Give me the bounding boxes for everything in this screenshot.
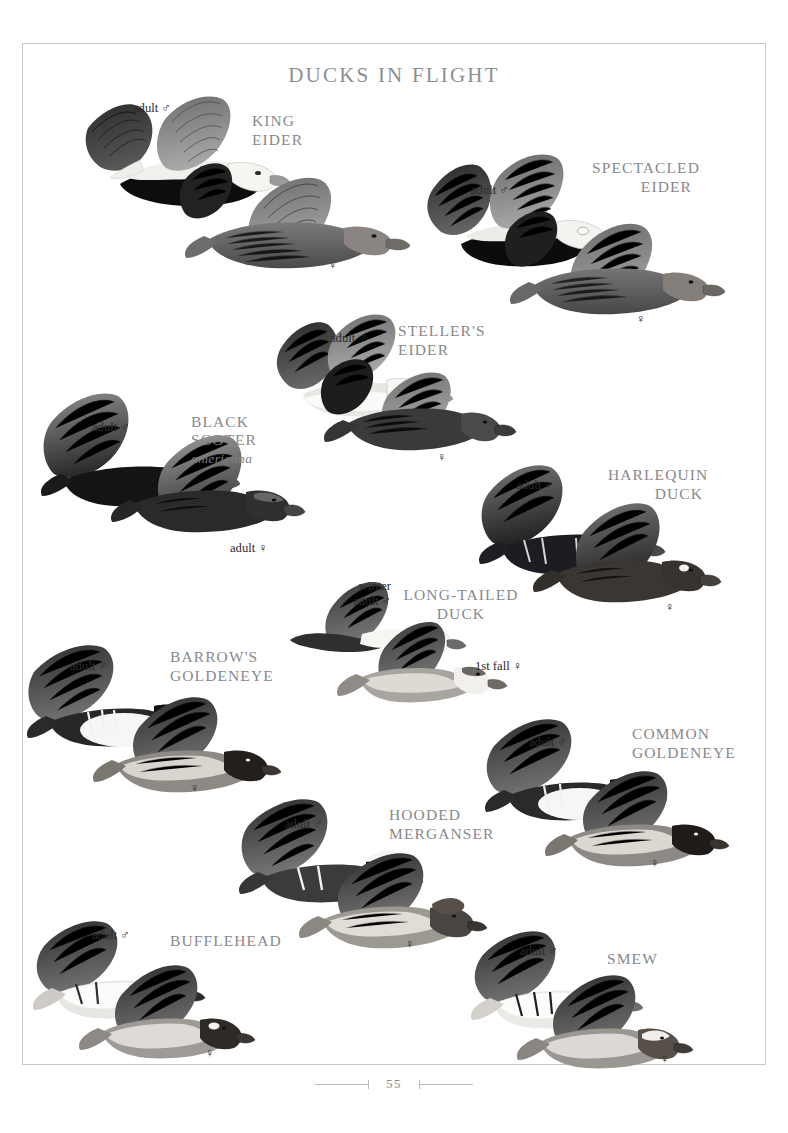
species-name-long-tailed-duck: LONG-TAILED DUCK xyxy=(400,586,522,623)
species-name-smew: SMEW xyxy=(607,950,658,969)
species-name-black-scoter: BLACK SCOTER americana xyxy=(191,394,257,487)
illustration-king-eider xyxy=(80,88,390,283)
age-label-hooded-merganser-male: adult ♂ xyxy=(285,817,323,832)
age-label-bufflehead-male: adult ♂ xyxy=(92,928,130,943)
age-label-long-tailed-duck-male: winter adult ♂ xyxy=(341,579,391,608)
age-label-spectacled-eider-female: ♀ xyxy=(636,312,645,327)
age-label-king-eider-female: ♀ xyxy=(328,258,337,273)
age-label-barrows-goldeneye-male: adult ♂ xyxy=(70,659,108,674)
species-name-barrows-goldeneye: BARROW'S GOLDENEYE xyxy=(170,648,274,685)
age-label-king-eider-male: adult ♂ xyxy=(133,101,171,116)
age-label-hooded-merganser-female: ♀ xyxy=(405,937,414,952)
age-label-barrows-goldeneye-female: ♀ xyxy=(190,781,199,796)
footer-rule-left xyxy=(315,1084,369,1085)
species-name-common-goldeneye: COMMON GOLDENEYE xyxy=(632,725,736,762)
age-label-harlequin-duck-male: adult ♂ xyxy=(516,478,554,493)
age-label-black-scoter-female: adult ♀ xyxy=(230,541,268,556)
species-name-hooded-merganser: HOODED MERGANSER xyxy=(389,806,495,843)
footer-rule-right xyxy=(419,1084,473,1085)
age-label-smew-male: adult ♂ xyxy=(520,944,558,959)
age-label-stellers-eider-male: adult ♂ xyxy=(330,331,368,346)
age-label-bufflehead-female: ♀ xyxy=(205,1046,214,1061)
species-name-bufflehead: BUFFLEHEAD xyxy=(170,932,282,951)
age-label-common-goldeneye-female: ♀ xyxy=(650,856,659,871)
page-number: 55 xyxy=(369,1076,419,1092)
age-label-spectacled-eider-male: adult ♂ xyxy=(471,183,509,198)
age-label-smew-female: ♀ xyxy=(660,1052,669,1067)
species-name-black-scoter-text: BLACK SCOTER xyxy=(191,413,257,449)
species-subspecies-black-scoter: americana xyxy=(191,450,257,469)
species-name-harlequin-duck: HARLEQUIN DUCK xyxy=(608,466,703,503)
age-label-common-goldeneye-male: adult ♂ xyxy=(529,735,567,750)
age-label-long-tailed-duck-first-fall: 1st fall ♀ xyxy=(475,659,522,674)
page-footer: 55 xyxy=(0,1072,788,1096)
page-title: DUCKS IN FLIGHT xyxy=(0,63,788,88)
species-name-king-eider: KING EIDER xyxy=(252,112,303,149)
species-name-spectacled-eider: SPECTACLED EIDER xyxy=(592,159,692,196)
age-label-stellers-eider-female: ♀ xyxy=(437,450,446,465)
age-label-harlequin-duck-female: ♀ xyxy=(665,600,674,615)
age-label-black-scoter-male: adult ♂ xyxy=(92,420,130,435)
species-name-stellers-eider: STELLER'S EIDER xyxy=(398,322,486,359)
